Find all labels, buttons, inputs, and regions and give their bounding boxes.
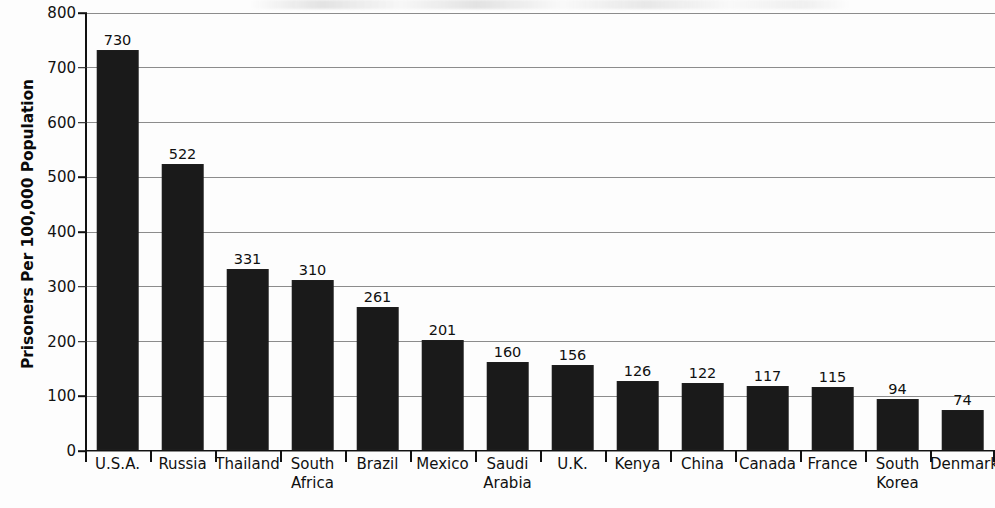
bar-value-label: 201 [429,322,457,338]
x-axis-category-label-line: South [280,455,345,474]
bar-value-label: 115 [819,369,847,385]
y-tick-label: 400 [47,223,76,241]
x-axis-category-label: Brazil [345,455,410,474]
x-axis-category-label-line: China [670,455,735,474]
bar[interactable] [941,410,984,451]
x-axis-category-label-line: Thailand [215,455,280,474]
x-axis-category-label-line: France [800,455,865,474]
x-axis-category-label: U.K. [540,455,605,474]
bar-group[interactable]: 115 [800,13,865,451]
y-tick-label: 100 [47,387,76,405]
bar-value-label: 730 [104,32,132,48]
x-axis-category-label-line: Mexico [410,455,475,474]
x-axis-category-label-line: Russia [150,455,215,474]
bar[interactable] [226,269,269,450]
bar[interactable] [616,381,659,450]
bar-value-label: 261 [364,289,392,305]
bars-layer: 7305223313102612011601561261221171159474 [85,13,995,451]
bar-value-label: 74 [953,392,971,408]
x-axis-category-label-line: Kenya [605,455,670,474]
x-axis-category-label: Kenya [605,455,670,474]
bar[interactable] [291,280,334,450]
bar[interactable] [356,307,399,450]
y-tick-label: 600 [47,114,76,132]
bar-value-label: 117 [754,368,782,384]
bar-group[interactable]: 310 [280,13,345,451]
bar[interactable] [681,383,724,450]
x-axis-category-label-line: U.K. [540,455,605,474]
y-axis-title: Prisoners Per 100,000 Population [19,79,37,369]
y-tick-label: 500 [47,168,76,186]
bar-value-label: 310 [299,262,327,278]
bar-group[interactable]: 331 [215,13,280,451]
bar-group[interactable]: 730 [85,13,150,451]
bar-value-label: 156 [559,347,587,363]
bar[interactable] [811,387,854,450]
y-tick-label: 0 [66,442,76,460]
bar-group[interactable]: 522 [150,13,215,451]
x-axis-category-label-line: Brazil [345,455,410,474]
y-tick-label: 800 [47,4,76,22]
bar-group[interactable]: 126 [605,13,670,451]
bar-group[interactable]: 94 [865,13,930,451]
x-axis-labels: U.S.A.RussiaThailandSouthAfricaBrazilMex… [85,455,995,508]
bar-value-label: 94 [888,381,906,397]
x-axis-category-label-line: Denmark [930,455,995,474]
bar[interactable] [486,362,529,450]
x-axis-category-label-line: Saudi [475,455,540,474]
bar-group[interactable]: 117 [735,13,800,451]
bar-value-label: 331 [234,251,262,267]
bar-group[interactable]: 160 [475,13,540,451]
x-axis-category-label: SouthAfrica [280,455,345,493]
bar-value-label: 522 [169,146,197,162]
bar[interactable] [421,340,464,450]
x-axis-category-label-line: South [865,455,930,474]
x-axis-category-label: Mexico [410,455,475,474]
x-axis-category-label: U.S.A. [85,455,150,474]
bar-value-label: 126 [624,363,652,379]
bar-group[interactable]: 74 [930,13,995,451]
x-axis-category-label-line: Canada [735,455,800,474]
y-tick-label: 200 [47,333,76,351]
bar[interactable] [876,399,919,450]
bar-group[interactable]: 261 [345,13,410,451]
bar[interactable] [551,365,594,450]
bar-value-label: 122 [689,365,717,381]
chart-page: Prisoners Per 100,000 Population 0100200… [0,0,995,508]
bar-group[interactable]: 201 [410,13,475,451]
x-axis-category-label: Canada [735,455,800,474]
bar-group[interactable]: 156 [540,13,605,451]
x-axis-category-label: France [800,455,865,474]
x-axis-category-label-line: Korea [865,474,930,493]
x-axis-category-label-line: Arabia [475,474,540,493]
x-axis-category-label: SouthKorea [865,455,930,493]
bar[interactable] [746,386,789,450]
x-axis-category-label: Denmark [930,455,995,474]
x-axis-category-label: Thailand [215,455,280,474]
bar[interactable] [161,164,204,450]
bar-value-label: 160 [494,344,522,360]
x-axis-category-label-line: Africa [280,474,345,493]
bar-group[interactable]: 122 [670,13,735,451]
x-axis-category-label: Russia [150,455,215,474]
x-axis-category-label: SaudiArabia [475,455,540,493]
x-axis-category-label-line: U.S.A. [85,455,150,474]
x-axis-category-label: China [670,455,735,474]
plot-area: 0100200300400500600700800 73052233131026… [85,13,995,451]
y-tick-label: 300 [47,278,76,296]
bar[interactable] [96,50,139,450]
scan-artifact [250,0,850,9]
y-tick-label: 700 [47,59,76,77]
